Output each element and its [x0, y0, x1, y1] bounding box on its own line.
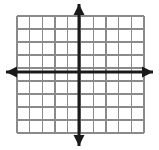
coordinate-plane-figure — [0, 0, 159, 150]
coordinate-plane-svg — [0, 0, 159, 150]
